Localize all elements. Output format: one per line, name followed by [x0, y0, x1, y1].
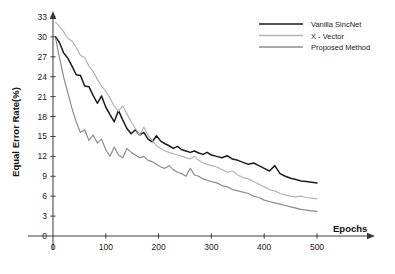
legend-label: Vanilla SincNet: [311, 20, 362, 29]
x-tick-label: 200: [152, 242, 166, 252]
x-tick-label: 400: [257, 242, 271, 252]
y-tick-label: 21: [38, 92, 48, 102]
y-tick-label: 27: [38, 52, 48, 62]
x-tick-label: 500: [310, 242, 324, 252]
y-tick-label: 9: [42, 171, 47, 181]
y-tick-label: 33: [38, 12, 48, 22]
legend-label: Proposed Method: [311, 43, 370, 52]
series-line: [56, 37, 317, 183]
y-tick-label: 15: [38, 131, 48, 141]
x-tick-label: 100: [99, 242, 113, 252]
y-axis-title: Equal Error Rate(%): [10, 87, 21, 177]
y-tick-label: 6: [42, 191, 47, 201]
legend-label: X - Vector: [311, 32, 344, 41]
series-line: [56, 22, 317, 199]
y-tick-label: 0: [42, 231, 47, 241]
x-axis-title: Epochs: [333, 223, 367, 234]
chart-series: [56, 22, 317, 211]
y-tick-label: 24: [38, 72, 48, 82]
chart-legend: Vanilla SincNetX - VectorProposed Method: [259, 20, 370, 52]
chart-figure: 036912151821242730330100200300400500 Equ…: [0, 0, 395, 274]
y-tick-label: 18: [38, 112, 48, 122]
y-tick-label: 12: [38, 151, 48, 161]
y-tick-label: 3: [42, 211, 47, 221]
y-tick-label: 30: [38, 32, 48, 42]
x-tick-label: 300: [204, 242, 218, 252]
series-line: [56, 38, 317, 211]
x-tick-label: 0: [51, 242, 56, 252]
line-chart: 036912151821242730330100200300400500 Equ…: [0, 0, 395, 274]
